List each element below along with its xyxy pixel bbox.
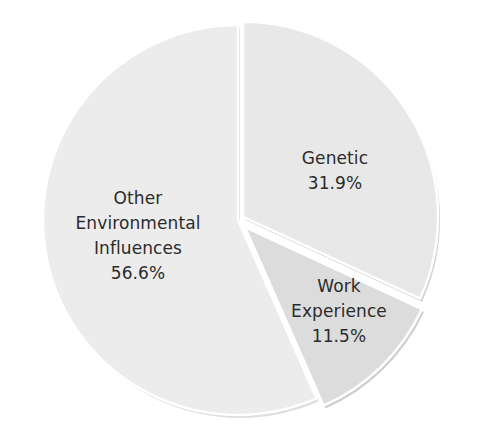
label-work-name-2: Experience: [291, 299, 387, 324]
label-work-experience: Work Experience 11.5%: [291, 274, 387, 349]
label-other-name-3: Influences: [76, 236, 201, 261]
label-other-value: 56.6%: [76, 261, 201, 286]
label-other-name-2: Environmental: [76, 211, 201, 236]
label-genetic-name: Genetic: [302, 146, 368, 171]
label-genetic: Genetic 31.9%: [302, 146, 368, 196]
label-work-value: 11.5%: [291, 324, 387, 349]
label-other-environmental: Other Environmental Influences 56.6%: [76, 186, 201, 286]
pie-chart: [0, 0, 478, 442]
label-work-name-1: Work: [291, 274, 387, 299]
label-other-name-1: Other: [76, 186, 201, 211]
label-genetic-value: 31.9%: [302, 171, 368, 196]
